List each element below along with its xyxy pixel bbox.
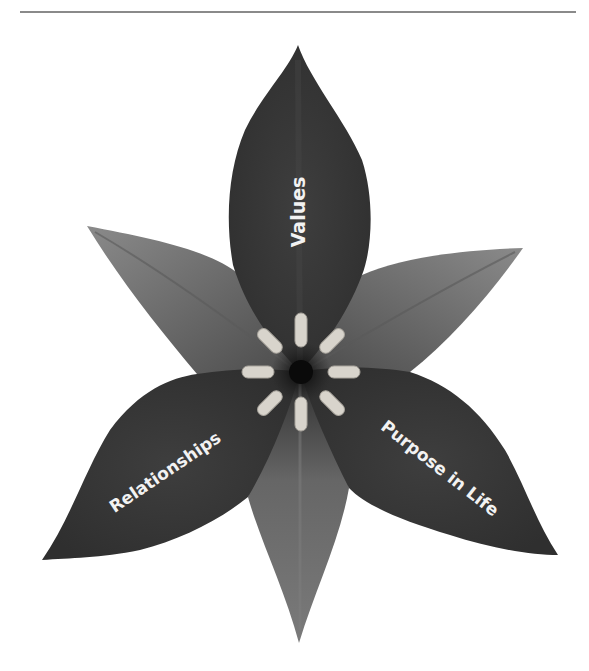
flower-diagram: Values Relationships Purpose in Life bbox=[0, 0, 589, 671]
petal-label-values: Values bbox=[287, 177, 309, 248]
flower-center bbox=[242, 313, 360, 431]
